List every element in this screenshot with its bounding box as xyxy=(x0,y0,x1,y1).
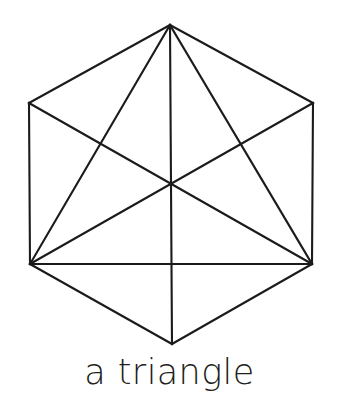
vertical-axis-line xyxy=(170,25,172,344)
figure-caption: a triangle xyxy=(0,349,339,395)
embedded-figure-card: a triangle xyxy=(0,0,339,396)
hex-edge-right-line xyxy=(312,103,313,264)
hexagon-triangle-figure xyxy=(0,0,339,396)
vertical-axis-group xyxy=(170,25,172,344)
hex-edge-bottom-left-line xyxy=(30,264,172,344)
hex-edge-bottom-right-line xyxy=(172,264,312,344)
hex-edge-top-left-line xyxy=(29,25,170,103)
hex-edge-left-line xyxy=(29,103,30,264)
hex-edge-top-right-line xyxy=(170,25,313,103)
